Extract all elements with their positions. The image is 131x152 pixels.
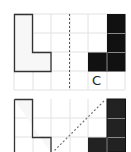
top-panel — [14, 14, 126, 90]
top-left-l-shape — [15, 15, 52, 72]
bottom-panel — [14, 99, 126, 152]
option-label: C — [92, 74, 101, 87]
bottom-right-l-shape — [88, 99, 126, 152]
diagram-canvas — [0, 0, 131, 152]
